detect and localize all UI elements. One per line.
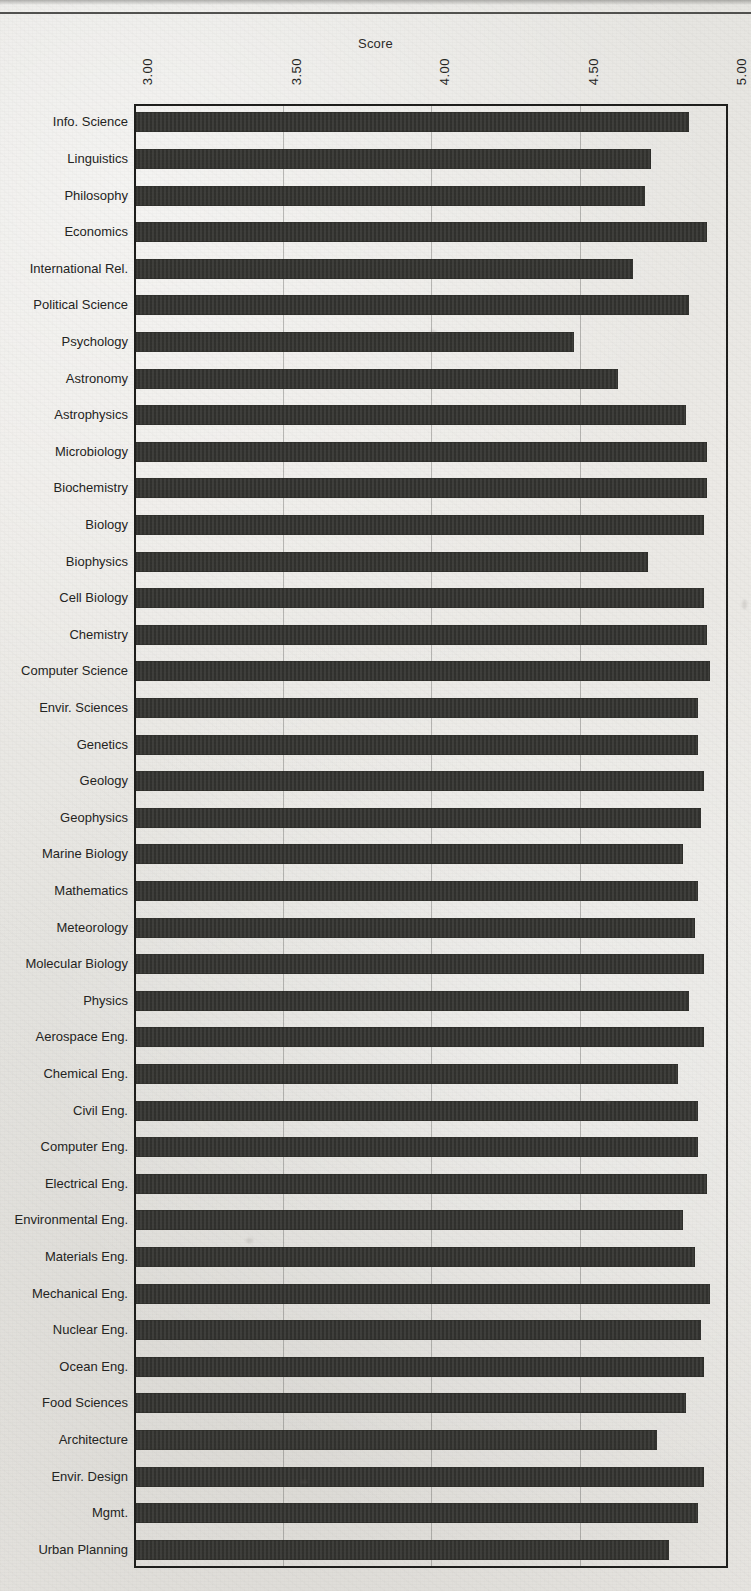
category-label: International Rel. xyxy=(0,262,128,276)
bar xyxy=(136,1174,707,1194)
bar xyxy=(136,698,698,718)
bar xyxy=(136,588,704,608)
category-label: Envir. Design xyxy=(0,1470,128,1484)
category-label: Psychology xyxy=(0,335,128,349)
plot-inner xyxy=(136,106,726,1566)
category-label: Molecular Biology xyxy=(0,957,128,971)
category-label: Linguistics xyxy=(0,152,128,166)
bar xyxy=(136,478,707,498)
category-label: Nuclear Eng. xyxy=(0,1323,128,1337)
bar xyxy=(136,1540,669,1560)
category-label: Geology xyxy=(0,774,128,788)
category-label: Astronomy xyxy=(0,372,128,386)
category-label: Urban Planning xyxy=(0,1543,128,1557)
category-label: Environmental Eng. xyxy=(0,1213,128,1227)
bar xyxy=(136,1101,698,1121)
bar xyxy=(136,625,707,645)
category-label: Food Sciences xyxy=(0,1396,128,1410)
bar xyxy=(136,186,645,206)
category-label: Mathematics xyxy=(0,884,128,898)
category-label: Envir. Sciences xyxy=(0,701,128,715)
category-label: Ocean Eng. xyxy=(0,1360,128,1374)
gridline xyxy=(283,106,284,1566)
bar xyxy=(136,881,698,901)
y-axis-category-labels: Info. ScienceLinguisticsPhilosophyEconom… xyxy=(0,104,128,1568)
category-label: Aerospace Eng. xyxy=(0,1030,128,1044)
category-label: Mgmt. xyxy=(0,1506,128,1520)
x-tick-label: 5.00 xyxy=(734,58,749,85)
bar xyxy=(136,1467,704,1487)
category-label: Computer Science xyxy=(0,664,128,678)
chart-page: Score 3.003.504.004.505.00 Info. Science… xyxy=(0,0,751,1591)
category-label: Geophysics xyxy=(0,811,128,825)
bar xyxy=(136,1357,704,1377)
category-label: Computer Eng. xyxy=(0,1140,128,1154)
x-tick-label: 4.50 xyxy=(586,58,601,85)
bar xyxy=(136,259,633,279)
category-label: Biochemistry xyxy=(0,481,128,495)
category-label: Electrical Eng. xyxy=(0,1177,128,1191)
bar xyxy=(136,112,689,132)
category-label: Chemical Eng. xyxy=(0,1067,128,1081)
category-label: Mechanical Eng. xyxy=(0,1287,128,1301)
bar xyxy=(136,991,689,1011)
category-label: Philosophy xyxy=(0,189,128,203)
x-tick-label: 3.50 xyxy=(289,58,304,85)
bar xyxy=(136,661,710,681)
category-label: Materials Eng. xyxy=(0,1250,128,1264)
bar xyxy=(136,1210,683,1230)
bar xyxy=(136,1320,701,1340)
bar xyxy=(136,222,707,242)
bar xyxy=(136,1247,695,1267)
gridline xyxy=(580,106,581,1566)
category-label: Political Science xyxy=(0,298,128,312)
bar xyxy=(136,1503,698,1523)
category-label: Biology xyxy=(0,518,128,532)
x-axis-title: Score xyxy=(0,36,751,51)
category-label: Physics xyxy=(0,994,128,1008)
bar xyxy=(136,771,704,791)
category-label: Cell Biology xyxy=(0,591,128,605)
category-label: Marine Biology xyxy=(0,847,128,861)
bar xyxy=(136,552,648,572)
plot-area xyxy=(134,104,728,1568)
bar xyxy=(136,149,651,169)
category-label: Microbiology xyxy=(0,445,128,459)
category-label: Meteorology xyxy=(0,921,128,935)
category-label: Info. Science xyxy=(0,115,128,129)
category-label: Biophysics xyxy=(0,555,128,569)
bar xyxy=(136,844,683,864)
bar xyxy=(136,918,695,938)
bar xyxy=(136,1027,704,1047)
page-top-shadow xyxy=(0,0,751,5)
x-tick-label: 4.00 xyxy=(437,58,452,85)
bar xyxy=(136,735,698,755)
bar xyxy=(136,1393,686,1413)
bar xyxy=(136,1064,678,1084)
bar xyxy=(136,515,704,535)
bar xyxy=(136,1137,698,1157)
category-label: Economics xyxy=(0,225,128,239)
bar xyxy=(136,295,689,315)
category-label: Architecture xyxy=(0,1433,128,1447)
bar xyxy=(136,442,707,462)
bar xyxy=(136,1430,657,1450)
gridline xyxy=(431,106,432,1566)
bar xyxy=(136,332,574,352)
bar xyxy=(136,369,618,389)
category-label: Chemistry xyxy=(0,628,128,642)
page-top-rule xyxy=(0,12,751,14)
category-label: Genetics xyxy=(0,738,128,752)
bar xyxy=(136,808,701,828)
x-tick-label: 3.00 xyxy=(140,58,155,85)
bar xyxy=(136,405,686,425)
bar xyxy=(136,1284,710,1304)
category-label: Astrophysics xyxy=(0,408,128,422)
category-label: Civil Eng. xyxy=(0,1104,128,1118)
paper-smudge xyxy=(742,600,747,609)
bar xyxy=(136,954,704,974)
